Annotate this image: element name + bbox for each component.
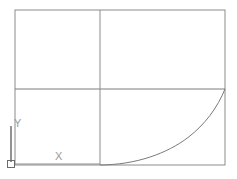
- outer-rectangle: [15, 10, 225, 165]
- x-axis-label: X: [55, 150, 63, 162]
- drawing-canvas[interactable]: Y X: [0, 0, 237, 179]
- exponential-curve: [100, 89, 225, 165]
- y-axis-label: Y: [14, 117, 22, 129]
- cad-drawing: Y X: [0, 0, 237, 179]
